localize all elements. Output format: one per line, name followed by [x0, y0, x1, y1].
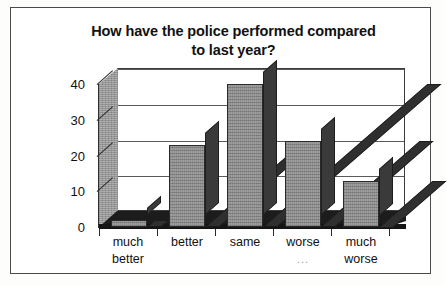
y-axis-label-20: 20: [55, 149, 85, 164]
x-axis-label-much-worse: much worse: [323, 234, 399, 268]
bar-much-better[interactable]: [111, 220, 147, 227]
bar-front-face: [169, 145, 205, 227]
y-axis-label-10: 10: [55, 184, 85, 199]
chart-frame: How have the police performed compared t…: [10, 7, 431, 274]
bar-much-worse[interactable]: [343, 181, 379, 228]
bar-front-face: [111, 220, 147, 227]
bar-better[interactable]: [169, 145, 205, 227]
gridline-40: [118, 69, 404, 70]
bar-side-face: [321, 117, 335, 215]
x-label-line-1: much: [113, 235, 144, 249]
bar-side-face: [205, 121, 219, 215]
bar-front-face: [343, 181, 379, 228]
y-axis-label-40: 40: [55, 77, 85, 92]
x-label-line-1: better: [171, 235, 203, 249]
wall-texture: [99, 68, 118, 227]
x-label-line-2: better: [90, 251, 166, 268]
chart-left-wall: [99, 68, 118, 227]
x-label-line-1: worse: [286, 235, 319, 249]
y-axis-label-0: 0: [55, 220, 85, 235]
bar-worse[interactable]: [285, 141, 321, 227]
bar-side-face: [263, 60, 277, 215]
plot-area: 40 30 20 10 0 much better better same wo…: [11, 8, 432, 275]
y-axis-label-30: 30: [55, 113, 85, 128]
bar-same[interactable]: [227, 84, 263, 227]
x-label-line-1: much: [346, 235, 377, 249]
bar-front-face: [285, 141, 321, 227]
bar-front-face: [227, 84, 263, 227]
x-label-line-1: same: [230, 235, 261, 249]
x-label-line-2: worse: [323, 251, 399, 268]
